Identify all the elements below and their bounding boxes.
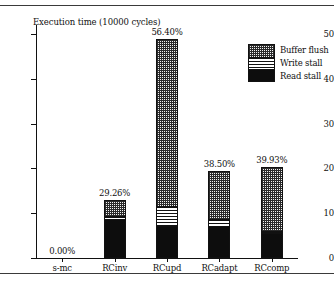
legend-swatch-solid-black xyxy=(249,69,274,81)
legend-swatch-horizontal-lines xyxy=(249,57,274,69)
bar-segment-read-stall-RCinv xyxy=(105,220,125,258)
chart-figure: Execution time (10000 cycles) 0102030405… xyxy=(0,0,334,281)
bar-RCupd[interactable] xyxy=(156,39,178,258)
bar-segment-read-stall-RCadapt xyxy=(209,227,229,258)
legend-labels: Buffer flushWrite stallRead stall xyxy=(280,44,329,83)
y-tick-label-30: 30 xyxy=(308,120,334,129)
bar-RCcomp[interactable] xyxy=(261,167,283,258)
x-tick-RCadapt xyxy=(219,258,220,262)
legend-label-write-stall: Write stall xyxy=(280,57,329,70)
y-tick-label-20: 20 xyxy=(308,164,334,173)
bar-segment-buffer-flush-RCinv xyxy=(105,201,125,216)
bar-value-label-RCinv: 29.26% xyxy=(75,188,155,198)
x-tick-RCcomp xyxy=(272,258,273,262)
y-tick-label-50: 50 xyxy=(308,30,334,39)
x-axis-label-RCcomp: RCcomp xyxy=(232,263,312,273)
x-tick-s-mc xyxy=(62,258,63,262)
x-tick-RCinv xyxy=(115,258,116,262)
legend-swatches xyxy=(248,44,275,82)
bar-RCinv[interactable] xyxy=(104,200,126,258)
bar-segment-read-stall-RCcomp xyxy=(262,234,282,258)
legend-swatch-cross-hatch-grid xyxy=(249,45,274,57)
bar-value-label-RCupd: 56.40% xyxy=(127,27,207,37)
bar-value-label-s-mc: 0.00% xyxy=(22,246,102,256)
bar-segment-buffer-flush-RCcomp xyxy=(262,168,282,231)
legend-label-read-stall: Read stall xyxy=(280,70,329,83)
bar-segment-read-stall-RCupd xyxy=(157,227,177,258)
y-tick-label-10: 10 xyxy=(308,209,334,218)
figure-top-rule xyxy=(0,5,334,6)
figure-bottom-rule xyxy=(0,273,334,274)
bar-RCadapt[interactable] xyxy=(208,171,230,258)
y-tick-0 xyxy=(31,258,36,259)
bar-segment-buffer-flush-RCupd xyxy=(157,40,177,205)
legend-label-buffer-flush: Buffer flush xyxy=(280,44,329,57)
y-tick-label-0: 0 xyxy=(308,254,334,263)
bar-segment-buffer-flush-RCadapt xyxy=(209,172,229,219)
bar-segment-write-stall-RCupd xyxy=(157,207,177,227)
bar-value-label-RCcomp: 39.93% xyxy=(232,155,312,165)
x-tick-RCupd xyxy=(167,258,168,262)
